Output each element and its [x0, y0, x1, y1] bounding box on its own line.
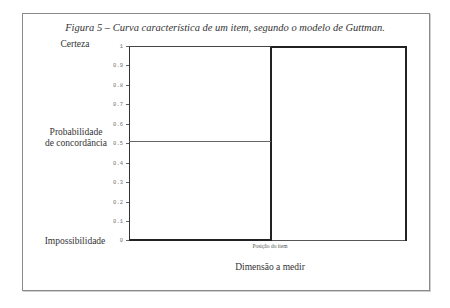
plot-top-border	[129, 46, 271, 47]
x-tick-posicao-item: Posição do item	[230, 243, 310, 249]
y-tick: 0.1	[97, 218, 123, 225]
y-tickmark	[126, 85, 129, 86]
y-tick: 0	[97, 237, 123, 244]
y-tickmark	[126, 182, 129, 183]
y-tickmark	[126, 202, 129, 203]
y-tickmark	[126, 143, 129, 144]
y-tick: 0.4	[97, 160, 123, 167]
y-tick: 0.8	[97, 82, 123, 89]
y-tickmark	[126, 124, 129, 125]
y-label-probabilidade: Probabilidade	[28, 127, 124, 137]
y-tick: 0.3	[97, 179, 123, 186]
y-tick: 0.2	[97, 199, 123, 206]
y-tickmark	[126, 163, 129, 164]
y-tick: 1	[97, 43, 123, 50]
y-tickmark	[126, 221, 129, 222]
y-tickmark	[126, 104, 129, 105]
step-curve-rise	[270, 46, 272, 241]
y-tick: 0.9	[97, 62, 123, 69]
x-axis-title: Dimensão a medir	[220, 262, 320, 272]
plot-area: 1 0.9 0.8 0.7 0.6 0.5 0.4 0.3 0.2 0.1 0	[129, 46, 407, 241]
y-tick: 0.7	[97, 101, 123, 108]
y-tick: 0.5	[97, 140, 123, 147]
y-tickmark	[126, 65, 129, 66]
plot-right-border	[405, 46, 407, 241]
y-axis	[129, 46, 130, 241]
y-tick: 0.6	[97, 121, 123, 128]
step-curve-low	[129, 239, 271, 241]
figure-title: Figura 5 – Curva característica de um it…	[0, 22, 450, 33]
reference-line-05	[129, 141, 271, 142]
step-curve-high	[270, 46, 407, 48]
